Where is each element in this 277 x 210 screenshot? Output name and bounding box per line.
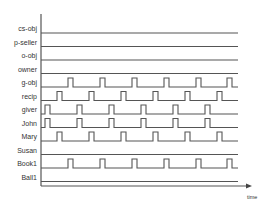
signal-row-book1: Book1: [17, 159, 238, 168]
signal-row-p-seller: p-seller: [14, 39, 238, 47]
axes: time: [41, 14, 257, 200]
signal-waveform: [41, 92, 238, 101]
signal-row-mary: Mary: [21, 132, 238, 141]
signal-waveform: [41, 159, 238, 168]
signal-row-giver: giver: [22, 105, 238, 114]
signal-label: Ball1: [21, 174, 37, 181]
signal-label: giver: [22, 106, 38, 114]
signal-waveform: [41, 105, 238, 114]
signal-waveform: [41, 78, 238, 87]
signal-label: o-obj: [21, 52, 37, 60]
signal-label: p-seller: [14, 39, 38, 47]
signal-row-john: John: [22, 119, 238, 128]
signal-label: John: [22, 120, 37, 127]
signal-row-recip: recip: [22, 92, 238, 101]
signal-row-susan: Susan: [17, 147, 238, 155]
signal-label: Book1: [17, 160, 37, 167]
signal-label: owner: [18, 66, 38, 73]
signal-row-ball1: Ball1: [21, 174, 238, 182]
signal-label: cs-obj: [18, 25, 37, 33]
timing-diagram: time cs-objp-sellero-objownerg-objrecipg…: [0, 0, 277, 210]
signal-waveform: [41, 132, 238, 141]
signal-rows: cs-objp-sellero-objownerg-objrecipgiverJ…: [14, 25, 238, 182]
signal-label: Susan: [17, 147, 37, 154]
signal-row-cs-obj: cs-obj: [18, 25, 238, 33]
signal-label: recip: [22, 93, 37, 101]
signal-label: Mary: [21, 133, 37, 141]
signal-row-o-obj: o-obj: [21, 52, 238, 60]
signal-row-owner: owner: [18, 66, 238, 74]
signal-row-g-obj: g-obj: [21, 78, 238, 87]
signal-waveform: [41, 119, 238, 128]
time-axis-label: time: [247, 194, 257, 200]
signal-label: g-obj: [21, 79, 37, 87]
arrowhead-icon: [246, 184, 252, 189]
